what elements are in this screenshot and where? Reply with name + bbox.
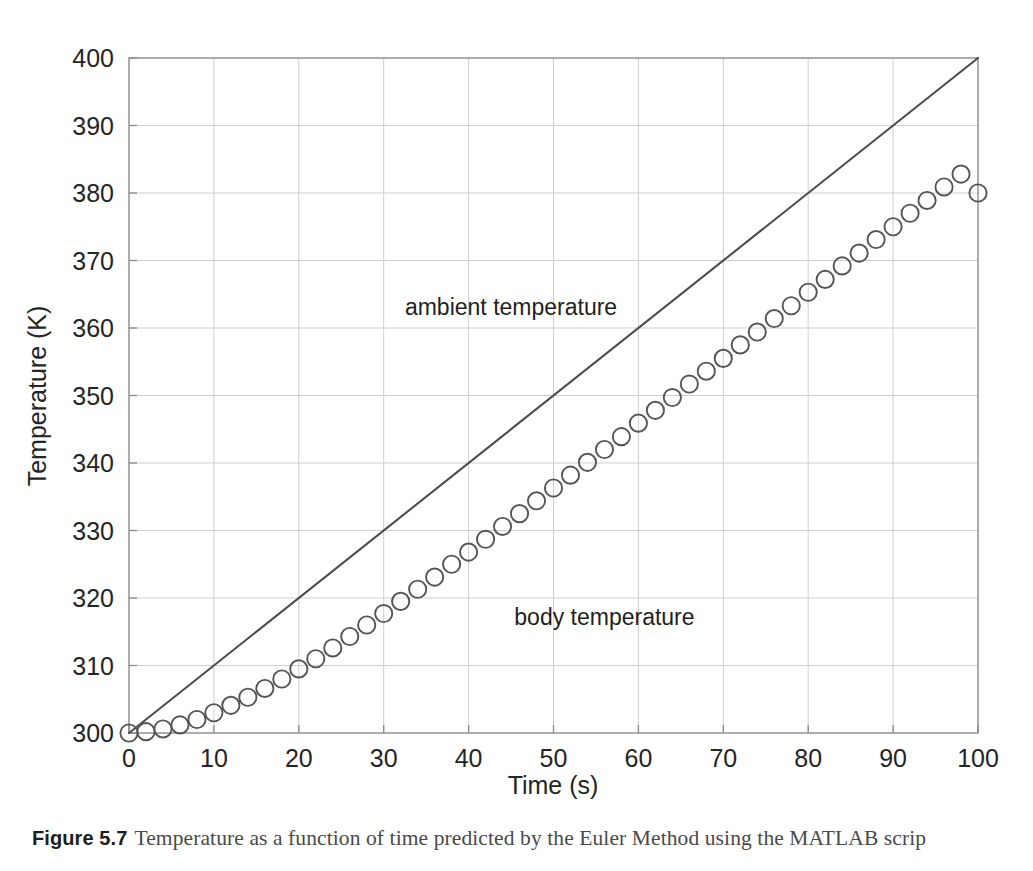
x-tick-label: 30 <box>370 744 398 772</box>
x-tick-label: 60 <box>624 744 652 772</box>
x-tick-label: 10 <box>200 744 228 772</box>
chart-annotation-label: ambient temperature <box>405 294 617 320</box>
y-tick-label: 390 <box>72 112 114 140</box>
y-tick-label: 300 <box>72 719 114 747</box>
x-tick-label: 90 <box>879 744 907 772</box>
y-tick-label: 370 <box>72 247 114 275</box>
x-tick-label: 20 <box>285 744 313 772</box>
x-tick-label: 40 <box>455 744 483 772</box>
x-tick-label: 100 <box>957 744 999 772</box>
y-tick-label: 330 <box>72 517 114 545</box>
figure-caption: Figure 5.7Temperature as a function of t… <box>32 826 1033 866</box>
x-tick-label: 0 <box>122 744 136 772</box>
y-tick-label: 350 <box>72 382 114 410</box>
figure-caption-label: Figure 5.7 <box>32 827 127 849</box>
y-axis-title: Temperature (K) <box>23 306 51 487</box>
x-tick-label: 70 <box>709 744 737 772</box>
figure-container: 0102030405060708090100 30031032033034035… <box>0 0 1033 806</box>
x-tick-label: 50 <box>540 744 568 772</box>
figure-caption-text: Temperature as a function of time predic… <box>134 826 926 850</box>
temperature-vs-time-chart: 0102030405060708090100 30031032033034035… <box>0 0 1033 806</box>
y-tick-label: 400 <box>72 44 114 72</box>
y-tick-label: 310 <box>72 652 114 680</box>
x-tick-label: 80 <box>794 744 822 772</box>
chart-background <box>0 0 1033 806</box>
y-tick-label: 340 <box>72 449 114 477</box>
y-tick-label: 320 <box>72 584 114 612</box>
chart-annotation-label: body temperature <box>514 604 694 630</box>
y-tick-label: 360 <box>72 314 114 342</box>
x-axis-title: Time (s) <box>508 771 599 799</box>
y-tick-label: 380 <box>72 179 114 207</box>
